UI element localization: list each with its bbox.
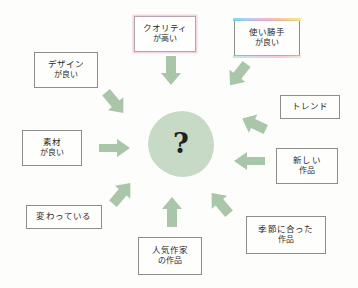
central-question-blob: ? bbox=[148, 111, 214, 177]
node-popular-artist[interactable]: 人気作家 の作品 bbox=[138, 237, 202, 275]
node-design-line1: デザイン bbox=[48, 59, 85, 70]
node-design-line2: が良い bbox=[54, 70, 79, 81]
node-unusual[interactable]: 変わっている bbox=[26, 205, 102, 229]
node-quality-line2: が高い bbox=[153, 34, 178, 45]
node-quality[interactable]: クオリティ が高い bbox=[134, 16, 196, 52]
node-material-line2: が良い bbox=[40, 148, 65, 159]
arrow-from-trend bbox=[238, 110, 270, 138]
arrow-from-popular-artist bbox=[161, 196, 183, 228]
arrow-from-design bbox=[100, 88, 130, 118]
node-usability-line2: が良い bbox=[255, 38, 280, 49]
node-seasonal-line2: 作品 bbox=[278, 235, 294, 246]
arrow-from-material bbox=[99, 138, 131, 158]
node-new-work-line2: 作品 bbox=[299, 166, 315, 177]
node-new-work[interactable]: 新しい 作品 bbox=[276, 148, 338, 184]
node-new-work-line1: 新しい bbox=[293, 155, 321, 166]
node-popular-artist-line2: の作品 bbox=[158, 256, 183, 267]
node-trend-line1: トレンド bbox=[292, 101, 329, 112]
node-design[interactable]: デザイン が良い bbox=[34, 52, 98, 88]
node-unusual-line1: 変わっている bbox=[36, 211, 91, 222]
node-trend[interactable]: トレンド bbox=[280, 95, 340, 119]
arrow-from-unusual bbox=[107, 178, 137, 208]
arrow-from-quality bbox=[160, 56, 182, 86]
node-usability[interactable]: 使い勝手 が良い bbox=[234, 20, 300, 56]
arrow-from-new-work bbox=[233, 151, 265, 171]
arrow-from-usability bbox=[224, 60, 252, 90]
question-mark-symbol: ? bbox=[173, 130, 189, 157]
node-seasonal[interactable]: 季節に合った 作品 bbox=[246, 216, 326, 254]
node-quality-line1: クオリティ bbox=[143, 23, 188, 34]
node-material-line1: 素材 bbox=[43, 137, 61, 148]
arrow-from-seasonal bbox=[205, 188, 235, 218]
node-material[interactable]: 素材 が良い bbox=[22, 130, 82, 166]
node-usability-line1: 使い勝手 bbox=[249, 27, 286, 38]
diagram-canvas: ? クオリティ が高い 使い勝手 が良い デザイン が良い トレンド 素材 が良… bbox=[0, 0, 358, 288]
node-popular-artist-line1: 人気作家 bbox=[152, 245, 189, 256]
node-seasonal-line1: 季節に合った bbox=[258, 224, 313, 235]
